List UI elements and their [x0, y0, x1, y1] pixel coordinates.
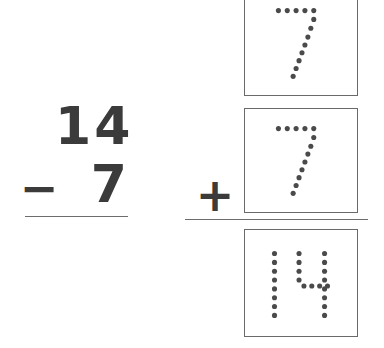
- subtraction-answer-rule: [25, 216, 128, 217]
- trace-box-middle[interactable]: [244, 108, 358, 213]
- dotted-numeral-7-middle: [245, 109, 357, 212]
- worksheet-canvas: 14 − 7: [0, 0, 384, 348]
- trace-box-bottom[interactable]: [244, 229, 358, 337]
- dotted-numeral-7-top: [245, 0, 357, 95]
- subtrahend-row: − 7: [0, 153, 150, 215]
- dotted-numeral-14-bottom: [245, 230, 357, 336]
- subtrahend-value: 7: [55, 158, 130, 210]
- trace-box-top[interactable]: [244, 0, 358, 96]
- addition-answer-rule: [185, 219, 368, 220]
- minuend-row: 14: [0, 95, 150, 157]
- plus-operator: +: [193, 172, 237, 218]
- printed-subtraction-problem: 14 − 7: [0, 95, 150, 225]
- tracing-addition-problem: +: [175, 0, 384, 348]
- minuend-value: 14: [55, 100, 130, 152]
- minus-operator: −: [18, 165, 60, 211]
